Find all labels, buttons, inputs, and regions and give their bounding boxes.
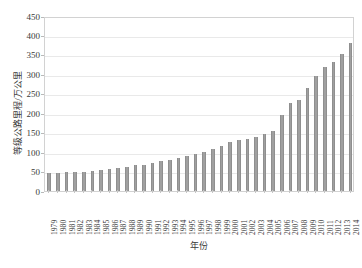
x-tick-label: 2003 [258, 220, 266, 235]
bar [125, 167, 129, 192]
x-tick-mark [289, 190, 290, 193]
bar [314, 76, 318, 191]
y-tick-label: 350 [0, 51, 40, 60]
x-tick-label: 1995 [189, 220, 197, 235]
bar [220, 146, 224, 191]
x-tick-mark [195, 190, 196, 193]
x-tick-mark [315, 190, 316, 193]
x-tick-label: 2000 [232, 220, 240, 235]
bar [65, 172, 69, 191]
x-tick-label: 1982 [77, 220, 85, 235]
bar [289, 103, 293, 191]
x-tick-mark [255, 190, 256, 193]
x-tick-mark [229, 190, 230, 193]
x-tick-mark [48, 190, 49, 193]
bar [271, 131, 275, 191]
bar [323, 67, 327, 191]
y-tick-label: 0 [0, 188, 40, 197]
x-tick-mark [341, 190, 342, 193]
bar [159, 161, 163, 191]
x-tick-label: 1987 [120, 220, 128, 235]
bars-layer [45, 18, 353, 191]
bar [211, 149, 215, 191]
y-tick-label: 250 [0, 90, 40, 99]
x-tick-mark [126, 190, 127, 193]
bar [185, 156, 189, 191]
bar [349, 43, 353, 191]
x-tick-label: 2005 [275, 220, 283, 235]
x-tick-mark [246, 190, 247, 193]
x-tick-mark [307, 190, 308, 193]
y-tick-label: 300 [0, 71, 40, 80]
x-tick-mark [66, 190, 67, 193]
bar [306, 88, 310, 191]
y-tick-label: 400 [0, 32, 40, 41]
bar [332, 62, 336, 191]
bar [177, 158, 181, 191]
x-tick-mark [83, 190, 84, 193]
bar [263, 134, 267, 191]
y-tick-label: 50 [0, 168, 40, 177]
x-tick-mark [324, 190, 325, 193]
bar [134, 165, 138, 191]
x-tick-mark [281, 190, 282, 193]
plot-area [44, 17, 354, 192]
x-tick-label: 1985 [103, 220, 111, 235]
bar [228, 142, 232, 191]
y-axis-tick-labels: 050100150200250300350400450 [0, 17, 40, 192]
x-tick-mark [169, 190, 170, 193]
x-tick-mark [177, 190, 178, 193]
x-axis-title: 年份 [44, 241, 354, 252]
y-tick-label: 200 [0, 110, 40, 119]
y-tick-label: 100 [0, 149, 40, 158]
bar [340, 54, 344, 191]
x-tick-mark [350, 190, 351, 193]
y-tick-label: 150 [0, 129, 40, 138]
bar [202, 152, 206, 191]
bar [280, 115, 284, 191]
x-tick-label: 2014 [353, 220, 361, 235]
bar [82, 172, 86, 191]
x-tick-mark [152, 190, 153, 193]
bar [237, 140, 241, 191]
bar [246, 139, 250, 191]
x-tick-mark [298, 190, 299, 193]
bar [254, 137, 258, 191]
bar [108, 169, 112, 191]
bar [142, 165, 146, 191]
x-tick-mark [117, 190, 118, 193]
x-tick-mark [160, 190, 161, 193]
x-tick-mark [203, 190, 204, 193]
x-tick-label: 2013 [344, 220, 352, 235]
x-tick-label: 1998 [215, 220, 223, 235]
x-tick-mark [109, 190, 110, 193]
x-tick-mark [212, 190, 213, 193]
bar [47, 173, 51, 191]
x-tick-mark [332, 190, 333, 193]
x-tick-mark [186, 190, 187, 193]
x-axis-tick-labels: 1979198019811982198319841985198619871988… [44, 193, 354, 237]
x-tick-mark [74, 190, 75, 193]
bar [168, 160, 172, 191]
x-tick-mark [143, 190, 144, 193]
bar [73, 172, 77, 191]
x-tick-mark [100, 190, 101, 193]
y-tick-label: 450 [0, 13, 40, 22]
bar [151, 163, 155, 191]
x-tick-mark [272, 190, 273, 193]
x-tick-mark [264, 190, 265, 193]
bar [56, 173, 60, 191]
x-tick-label: 2008 [301, 220, 309, 235]
bar [91, 171, 95, 191]
x-tick-mark [91, 190, 92, 193]
bar [194, 154, 198, 191]
bar [116, 168, 120, 191]
bar-chart: 等级公路里程/万公里 050100150200250300350400450 1… [0, 0, 362, 268]
x-tick-mark [57, 190, 58, 193]
x-tick-mark [134, 190, 135, 193]
x-tick-label: 1980 [60, 220, 68, 235]
bar [297, 100, 301, 191]
x-tick-mark [238, 190, 239, 193]
x-tick-label: 1990 [146, 220, 154, 235]
x-tick-mark [221, 190, 222, 193]
